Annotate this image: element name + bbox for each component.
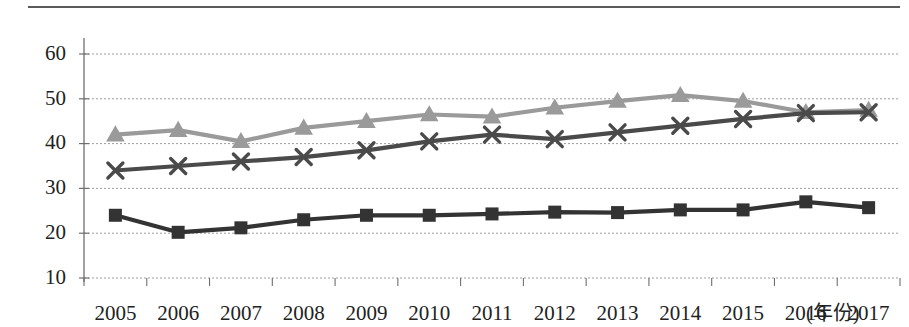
x-axis-tick-label: 2009 <box>345 301 387 325</box>
data-point-marker-square <box>674 203 687 216</box>
x-axis-tick-label: 2013 <box>597 301 639 325</box>
y-axis-tick-label: 60 <box>45 41 66 65</box>
y-axis-tick-label: 40 <box>45 130 66 154</box>
x-axis-tick-label: 2011 <box>471 301 512 325</box>
data-point-marker-square <box>234 221 247 234</box>
data-point-marker-square <box>486 207 499 220</box>
data-point-marker-square <box>172 226 185 239</box>
data-point-marker-square <box>799 195 812 208</box>
y-axis-tick-label: 20 <box>45 220 66 244</box>
data-point-marker-square <box>109 209 122 222</box>
y-axis-tick-label: 10 <box>45 265 66 289</box>
x-axis-tick-label: 2005 <box>94 301 136 325</box>
data-point-marker-square <box>862 201 875 214</box>
x-axis-tick-label: 2014 <box>659 301 702 325</box>
x-axis-tick-label: 2015 <box>722 301 764 325</box>
data-series-group <box>106 86 878 239</box>
chart-svg: 102030405060 200520062007200820092010201… <box>0 0 909 327</box>
chart-figure: 102030405060 200520062007200820092010201… <box>0 0 909 327</box>
data-point-marker-square <box>548 206 561 219</box>
line-chart-plot-area: 102030405060 200520062007200820092010201… <box>0 0 909 327</box>
y-axis-tick-label: 30 <box>45 175 66 199</box>
x-axis-ticks-group <box>84 278 900 286</box>
x-axis-tick-labels-group: 2005200620072008200920102011201220132014… <box>94 301 889 325</box>
data-point-marker-square <box>737 203 750 216</box>
data-point-marker-square <box>297 213 310 226</box>
y-axis-tick-labels-group: 102030405060 <box>45 41 66 289</box>
data-point-marker-square <box>423 209 436 222</box>
x-axis-tick-label: 2012 <box>534 301 576 325</box>
x-axis-tick-label: 2010 <box>408 301 450 325</box>
series-series-square-dark <box>109 195 875 238</box>
y-axis-tick-label: 50 <box>45 86 66 110</box>
x-axis-tick-label: 2007 <box>220 301 262 325</box>
x-axis-tick-label: 2006 <box>157 301 199 325</box>
x-axis-tick-label: 2008 <box>283 301 325 325</box>
data-point-marker-square <box>360 209 373 222</box>
x-axis-unit-label: (年份) <box>806 302 859 325</box>
data-point-marker-square <box>611 206 624 219</box>
